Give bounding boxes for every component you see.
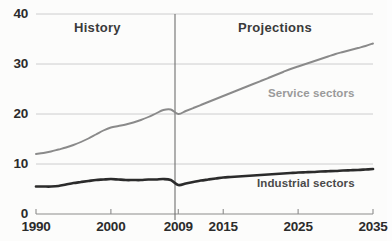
history-region-label: History: [74, 20, 121, 35]
y-axis-label-10: 10: [2, 156, 28, 171]
x-axis-label-2015: 2015: [196, 219, 250, 234]
series-label-industrial-sectors: Industrial sectors: [257, 177, 355, 189]
series-label-service-sectors: Service sectors: [268, 87, 355, 99]
projections-region-label: Projections: [238, 20, 312, 35]
x-axis-label-1990: 1990: [9, 219, 63, 234]
y-axis-label-40: 40: [2, 6, 28, 21]
x-axis-label-2000: 2000: [84, 219, 138, 234]
y-axis-label-30: 30: [2, 56, 28, 71]
x-axis-tick-marks: [36, 209, 373, 214]
x-axis-label-2025: 2025: [271, 219, 325, 234]
y-axis-label-20: 20: [2, 106, 28, 121]
x-axis-label-2035: 2035: [346, 219, 392, 234]
